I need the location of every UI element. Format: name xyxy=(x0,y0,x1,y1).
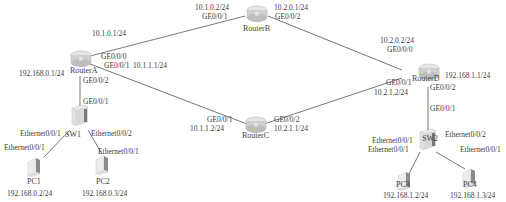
sw2-eth001: Ethernet0/0/1 xyxy=(372,136,413,145)
pc1-eth001: Ethernet0/0/1 xyxy=(4,143,45,152)
pc4-label: PC4 xyxy=(463,180,477,189)
router-icon: R xyxy=(246,5,268,23)
ra-ge002: GE0/0/2 xyxy=(83,76,108,85)
pc3-label: PC3 xyxy=(396,180,410,189)
pc-icon xyxy=(26,156,42,178)
ra-lan-ip: 192.168.0.1/24 xyxy=(19,69,64,78)
pc1-label: PC1 xyxy=(27,177,41,186)
router-c-label: RouterC xyxy=(242,131,269,140)
router-a-label: RouterA xyxy=(70,66,98,75)
rc-ge001: GE0/0/1 xyxy=(207,115,232,124)
rb-d-ip: 10.2.0.1/24 xyxy=(274,3,308,12)
sw1-eth001: Ethernet0/0/1 xyxy=(20,129,61,138)
pc4-ip: 192.168.1.3/24 xyxy=(450,191,495,200)
pc1-ip: 192.168.0.2/24 xyxy=(7,189,52,198)
sw2-eth002: Ethernet0/0/2 xyxy=(445,130,486,139)
router-b-label: RouterB xyxy=(243,24,270,33)
switch-sw1[interactable] xyxy=(70,104,90,132)
pc3-eth001: Ethernet0/0/1 xyxy=(368,145,409,154)
sw1-eth002: Ethernet0/0/2 xyxy=(91,129,132,138)
rd-lan-ip: 192.168.1.1/24 xyxy=(445,71,490,80)
pc4-eth001: Ethernet0/0/1 xyxy=(460,145,501,154)
pc2-eth001: Ethernet0/0/1 xyxy=(98,147,139,156)
router-d-label: RouterD xyxy=(412,74,440,83)
rd-ge002: GE0/0/2 xyxy=(430,83,455,92)
ra-ge000: GE0/0/0 xyxy=(101,52,126,61)
rd-ge001: GE0/0/1 xyxy=(386,78,411,87)
ra-b-ip: 10.1.0.1/24 xyxy=(92,29,126,38)
ra-ge001: GE0/0/1 xyxy=(104,61,129,70)
pc-icon xyxy=(94,154,110,176)
rb-a-ip: 10.1.0.2/24 xyxy=(195,3,229,12)
pc2-ip: 192.168.0.3/24 xyxy=(82,189,127,198)
pc2-label: PC2 xyxy=(96,177,110,186)
rc-ge002: GE0/0/2 xyxy=(274,115,299,124)
svg-text:R: R xyxy=(254,121,258,128)
rd-b-ip: 10.2.0.2/24 xyxy=(380,36,414,45)
svg-text:R: R xyxy=(255,10,259,17)
switch-icon xyxy=(70,104,90,128)
rc-a-ip: 10.1.1.2/24 xyxy=(190,124,224,133)
rc-d-ip: 10.2.1.1/24 xyxy=(274,124,308,133)
svg-text:R: R xyxy=(79,55,83,62)
sw1-ge001: GE0/0/1 xyxy=(83,97,108,106)
rb-ge001: GE0/0/1 xyxy=(202,12,227,21)
sw1-label: SW1 xyxy=(65,130,81,139)
pc3-ip: 192.168.1.2/24 xyxy=(383,191,428,200)
rd-ge000: GE0/0/0 xyxy=(387,45,412,54)
rb-ge002: GE0/0/2 xyxy=(275,12,300,21)
sw2-ge001: GE0/0/1 xyxy=(430,104,455,113)
sw2-label: SW2 xyxy=(422,134,438,143)
rd-c-ip: 10.2.1.2/24 xyxy=(374,88,408,97)
ra-c-ip: 10.1.1.1/24 xyxy=(133,61,167,70)
network-diagram: R R R R xyxy=(0,0,506,202)
